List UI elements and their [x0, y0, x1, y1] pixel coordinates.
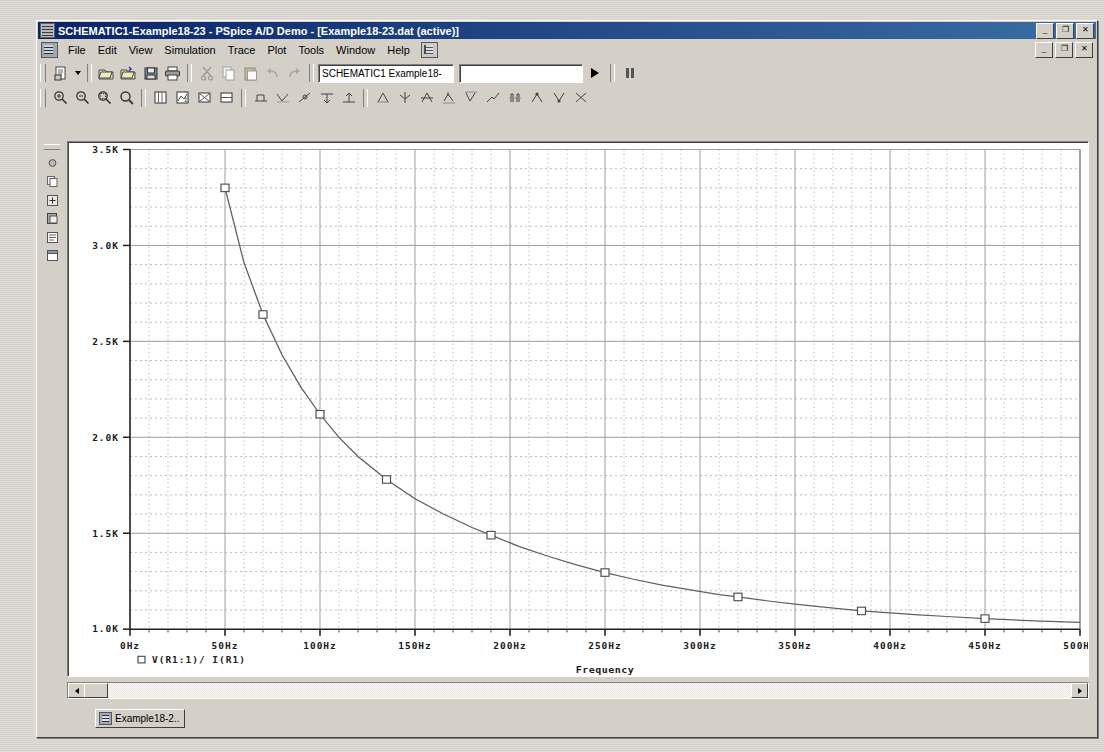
- zoom-area-icon[interactable]: [94, 88, 115, 108]
- mark-cross-icon[interactable]: [570, 88, 591, 108]
- svg-text:350Hz: 350Hz: [778, 640, 812, 651]
- mark-slope-icon[interactable]: [482, 88, 503, 108]
- cursor-slope-icon[interactable]: [294, 88, 315, 108]
- copy-icon[interactable]: [43, 173, 62, 190]
- mdi-close-button[interactable]: ✕: [1075, 42, 1093, 58]
- pause-simulation-icon[interactable]: [619, 63, 641, 83]
- mdi-taskbar: Example18-2..: [67, 703, 1089, 733]
- add-plot-icon[interactable]: [150, 88, 171, 108]
- menu-item-view[interactable]: View: [123, 42, 159, 58]
- add-trace-icon[interactable]: [43, 192, 62, 209]
- menu-item-tools[interactable]: Tools: [292, 42, 330, 58]
- toolbar-separator: [141, 89, 146, 107]
- zoom-out-icon[interactable]: [72, 88, 93, 108]
- svg-text:450Hz: 450Hz: [968, 640, 1002, 651]
- simulation-profile-combo[interactable]: SCHEMATIC1 Example18-: [318, 64, 454, 83]
- save-icon[interactable]: [140, 63, 161, 83]
- paste-icon[interactable]: [240, 63, 261, 83]
- window-icon: [99, 712, 112, 725]
- svg-text:0Hz: 0Hz: [120, 640, 140, 651]
- toolbar-separator: [363, 89, 368, 107]
- svg-text:500Hz: 500Hz: [1063, 640, 1088, 651]
- cursor-min-icon[interactable]: [316, 88, 337, 108]
- zoom-fit-icon[interactable]: [116, 88, 137, 108]
- scrollbar-thumb[interactable]: [84, 683, 108, 698]
- cursor-max-icon[interactable]: [338, 88, 359, 108]
- plot-canvas[interactable]: 1.0K1.5K2.0K2.5K3.0K3.5K 0Hz50Hz100Hz150…: [68, 142, 1088, 676]
- mark-max-icon[interactable]: [438, 88, 459, 108]
- probe-icon[interactable]: [421, 42, 438, 58]
- toolbar-separator: [610, 64, 615, 82]
- window-icon[interactable]: [43, 247, 62, 264]
- menu-item-trace[interactable]: Trace: [222, 42, 262, 58]
- scroll-right-icon[interactable]: [1071, 683, 1088, 698]
- menu-item-plot[interactable]: Plot: [261, 42, 292, 58]
- delete-plot-icon[interactable]: [194, 88, 215, 108]
- mark-peak-icon[interactable]: [526, 88, 547, 108]
- plot-legend[interactable]: V(R1:1)/ I(R1): [138, 654, 246, 665]
- cursor-trough-icon[interactable]: [272, 88, 293, 108]
- search-commands-icon[interactable]: [416, 88, 437, 108]
- file-icon[interactable]: [43, 155, 62, 172]
- open-simulation-icon[interactable]: [118, 63, 139, 83]
- cursor-peak-icon[interactable]: [250, 88, 271, 108]
- mdi-client-area: 1.0K1.5K2.0K2.5K3.0K3.5K 0Hz50Hz100Hz150…: [39, 139, 1095, 735]
- restore-button[interactable]: ❐: [1056, 23, 1074, 39]
- mark-trough-icon[interactable]: [548, 88, 569, 108]
- redo-icon[interactable]: [284, 63, 305, 83]
- menu-item-edit[interactable]: Edit: [92, 42, 123, 58]
- window-controls: _ ❐ ✕: [1036, 23, 1094, 39]
- window-title: SCHEMATIC1-Example18-23 - PSpice A/D Dem…: [58, 25, 1036, 37]
- new-file-icon[interactable]: [50, 63, 71, 83]
- taskbar-tab-example18[interactable]: Example18-2..: [95, 709, 185, 728]
- taskbar-tab-label: Example18-2..: [115, 713, 179, 724]
- title-bar: SCHEMATIC1-Example18-23 - PSpice A/D Dem…: [38, 22, 1096, 39]
- menu-bar: File Edit View Simulation Trace Plot Too…: [38, 40, 1096, 60]
- print-icon[interactable]: [162, 63, 183, 83]
- mark-min-icon[interactable]: [460, 88, 481, 108]
- cut-icon[interactable]: [196, 63, 217, 83]
- toolbar-grip[interactable]: [40, 64, 46, 82]
- scroll-left-icon[interactable]: [68, 683, 85, 698]
- new-file-dropdown-icon[interactable]: [72, 63, 83, 83]
- svg-text:3.0K: 3.0K: [92, 240, 119, 251]
- svg-text:200Hz: 200Hz: [493, 640, 527, 651]
- probe-plot-window[interactable]: 1.0K1.5K2.0K2.5K3.0K3.5K 0Hz50Hz100Hz150…: [67, 141, 1089, 677]
- zoom-in-icon[interactable]: [50, 88, 71, 108]
- svg-text:V(R1:1)/ I(R1): V(R1:1)/ I(R1): [152, 654, 246, 665]
- paste-icon[interactable]: [43, 210, 62, 227]
- simulation-status-field[interactable]: [459, 64, 583, 83]
- toolbar-separator: [87, 64, 92, 82]
- list-icon[interactable]: [43, 229, 62, 246]
- mark-label-icon[interactable]: [372, 88, 393, 108]
- close-button[interactable]: ✕: [1076, 23, 1094, 39]
- minimize-button[interactable]: _: [1036, 23, 1054, 39]
- svg-text:2.0K: 2.0K: [92, 432, 119, 443]
- menu-item-file[interactable]: File: [62, 42, 92, 58]
- menu-item-window[interactable]: Window: [330, 42, 381, 58]
- mdi-minimize-button[interactable]: _: [1035, 42, 1053, 58]
- mdi-restore-button[interactable]: ❐: [1055, 42, 1073, 58]
- menu-item-simulation[interactable]: Simulation: [158, 42, 221, 58]
- open-file-icon[interactable]: [96, 63, 117, 83]
- add-trace-icon[interactable]: I: [172, 88, 193, 108]
- toolbar-separator: [309, 64, 314, 82]
- svg-text:Frequency: Frequency: [576, 664, 635, 675]
- menu-item-help[interactable]: Help: [381, 42, 416, 58]
- copy-icon[interactable]: [218, 63, 239, 83]
- plot-toolbar: I: [38, 86, 1096, 109]
- mark-avg-icon[interactable]: [504, 88, 525, 108]
- document-icon[interactable]: [41, 42, 58, 58]
- mark-point-icon[interactable]: [394, 88, 415, 108]
- run-simulation-icon[interactable]: [584, 63, 606, 83]
- y-axis-tick-labels: 1.0K1.5K2.0K2.5K3.0K3.5K: [92, 144, 119, 634]
- toolbar-grip[interactable]: [40, 89, 46, 107]
- pspice-icon: [40, 23, 55, 38]
- toggle-cursor-icon[interactable]: [216, 88, 237, 108]
- scrollbar-track[interactable]: [68, 683, 1088, 698]
- vtoolbar-grip[interactable]: [44, 144, 60, 150]
- horizontal-scrollbar[interactable]: [67, 682, 1089, 699]
- trace-line[interactable]: [225, 188, 1080, 623]
- undo-icon[interactable]: [262, 63, 283, 83]
- pspice-main-window: SCHEMATIC1-Example18-23 - PSpice A/D Dem…: [36, 20, 1098, 738]
